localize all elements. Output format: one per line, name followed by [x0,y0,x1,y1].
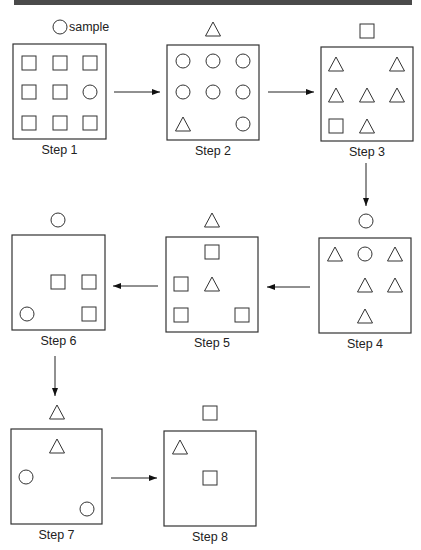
step-box [13,44,106,139]
header-bar [14,0,412,5]
triangle-added-icon [205,213,220,227]
arrowhead-icon [52,388,58,396]
step-4: Step 4 [319,214,411,351]
arrowhead-icon [113,283,121,289]
legend: sample [53,20,109,34]
step-label: Step 8 [192,530,228,544]
step-7: Step 7 [11,405,102,542]
step-label: Step 6 [40,334,76,348]
step-2: Step 2 [167,22,259,158]
step-label: Step 4 [347,337,383,351]
arrow [363,163,369,206]
step-1: Step 1 [13,44,106,157]
legend-label: sample [69,20,109,34]
arrow [52,356,58,396]
circle-added-icon [51,213,65,227]
arrow [268,89,314,95]
triangle-added-icon [50,405,65,419]
step-box [11,429,102,524]
step-box [164,431,256,526]
process-diagram: sample Step 1Step 2Step 3Step 4Step 5Ste… [0,0,421,550]
step-label: Step 2 [195,144,231,158]
step-8: Step 8 [164,406,256,544]
steps: Step 1Step 2Step 3Step 4Step 5Step 6Step… [11,22,413,544]
step-5: Step 5 [166,213,258,350]
step-3: Step 3 [321,24,413,159]
step-box [12,235,105,330]
arrowhead-icon [363,198,369,206]
step-6: Step 6 [12,213,105,348]
step-label: Step 7 [38,528,74,542]
arrow [114,89,160,95]
step-label: Step 5 [194,336,230,350]
arrowhead-icon [149,475,157,481]
arrow [111,475,157,481]
step-label: Step 1 [41,143,77,157]
circle-added-icon [359,214,373,228]
step-label: Step 3 [349,145,385,159]
square-added-icon [203,406,217,420]
sample-circle-icon [53,20,67,34]
step-box [167,45,259,140]
arrow [113,283,158,289]
arrowhead-icon [267,284,275,290]
step-box [319,238,411,333]
triangle-added-icon [206,22,221,36]
arrowhead-icon [306,89,314,95]
square-added-icon [360,24,374,38]
arrowhead-icon [152,89,160,95]
step-box [166,237,258,332]
arrow [267,284,310,290]
